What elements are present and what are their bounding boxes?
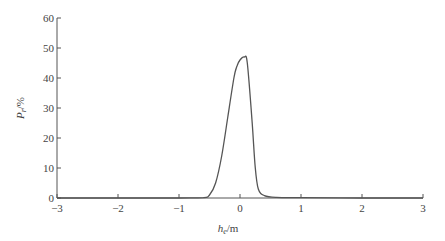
plot-area: 0102030405060 −3−2−10123 [43,12,426,214]
y-tick-label: 50 [43,42,55,54]
x-tick-label: −1 [173,202,185,214]
x-tick-label: 2 [359,202,365,214]
x-tick-label: −2 [112,202,124,214]
x-tick-label: 1 [298,202,304,214]
y-tick-label: 20 [43,132,55,144]
y-tick-label: 40 [43,72,55,84]
x-tick-label: 3 [420,202,426,214]
y-axis-title: Pr/% [14,97,28,120]
line-chart: 0102030405060 −3−2−10123 he/m Pr/% [0,0,445,241]
x-tick-label: −3 [51,202,63,214]
x-tick-label: 0 [237,202,243,214]
data-series-line [57,56,423,198]
x-axis-title: he/m [218,222,239,236]
x-ticks: −3−2−10123 [51,194,426,214]
y-ticks: 0102030405060 [43,12,61,204]
y-tick-label: 60 [43,12,55,24]
y-tick-label: 30 [43,102,55,114]
y-tick-label: 10 [43,162,55,174]
